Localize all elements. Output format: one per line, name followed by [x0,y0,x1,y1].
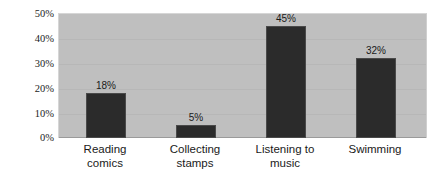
bar-value-label-collecting-stamps: 5% [166,112,226,123]
bar-value-label-listening-to-music: 45% [256,13,316,24]
y-tick-label-40: 40% [2,33,54,44]
bar-swimming[interactable] [356,58,396,138]
x-tick-label-collecting-stamps: Collecting stamps [145,142,245,170]
y-tick-label-50: 50% [2,8,54,19]
bar-collecting-stamps[interactable] [176,125,216,138]
y-axis: 50% 40% 30% 20% 10% 0% [0,0,56,194]
y-tick-label-10: 10% [2,108,54,119]
y-tick-label-20: 20% [2,83,54,94]
y-tick-label-30: 30% [2,58,54,69]
x-axis: Reading comics Collecting stamps Listeni… [58,142,427,192]
bar-value-label-reading-comics: 18% [76,80,136,91]
plot-area: 18% 5% 45% 32% [58,13,427,138]
y-tick-label-0: 0% [2,132,54,143]
gridline-40 [59,39,426,40]
bar-listening-to-music[interactable] [266,26,306,138]
bar-reading-comics[interactable] [86,93,126,138]
bar-chart: 50% 40% 30% 20% 10% 0% 18% 5% 45% 32% Re… [0,0,442,194]
x-tick-label-reading-comics: Reading comics [55,142,155,170]
x-tick-label-listening-to-music: Listening to music [235,142,335,170]
bar-value-label-swimming: 32% [346,45,406,56]
x-tick-label-swimming: Swimming [325,142,425,156]
